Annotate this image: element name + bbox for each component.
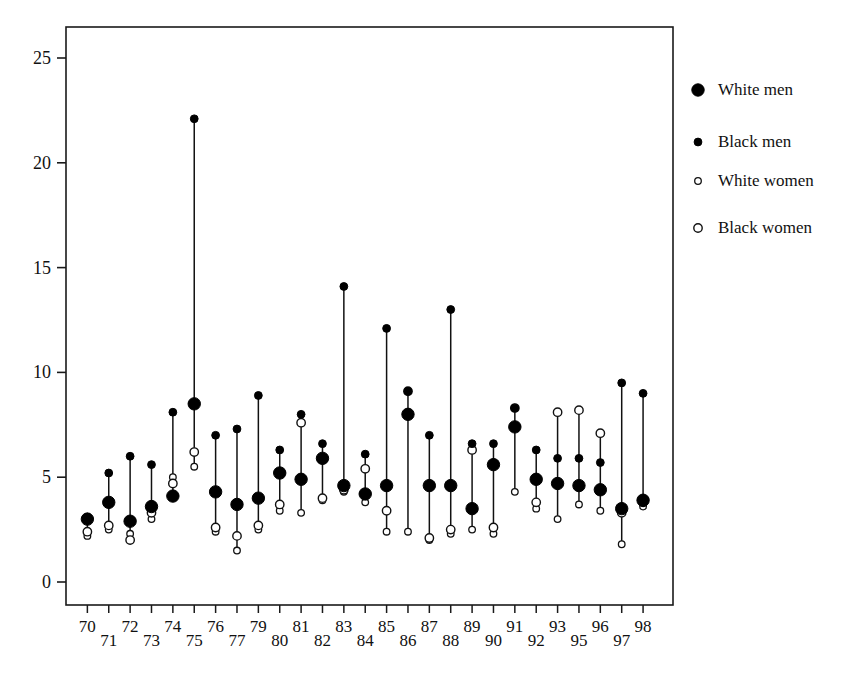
data-point (276, 500, 284, 508)
x-tick-label-bottom: 92 (528, 631, 545, 650)
y-tick-label: 25 (33, 48, 51, 68)
y-tick-label: 10 (33, 362, 51, 382)
data-point (575, 454, 583, 462)
data-point (126, 536, 134, 544)
data-point (532, 446, 540, 454)
data-point (188, 398, 200, 410)
x-tick-label-top: 91 (506, 617, 523, 636)
scatter-chart: 0510152025707274767981838587899193969871… (0, 0, 858, 681)
data-point (380, 479, 392, 491)
data-point (105, 469, 113, 477)
legend-label-0: White men (718, 80, 793, 100)
data-point (276, 446, 284, 454)
data-point (489, 523, 497, 531)
data-point (596, 459, 604, 467)
data-point (594, 484, 606, 496)
data-point (425, 534, 433, 542)
x-tick-label-bottom: 88 (442, 631, 459, 650)
legend-label-1: Black men (718, 132, 791, 152)
data-point (554, 454, 562, 462)
data-point (425, 431, 433, 439)
data-point (618, 379, 626, 387)
x-tick-label-bottom: 90 (485, 631, 502, 650)
plot-frame (66, 27, 673, 605)
data-point (511, 404, 519, 412)
data-point (338, 479, 350, 491)
data-point (597, 507, 604, 514)
data-point (124, 515, 136, 527)
data-point (576, 501, 583, 508)
x-tick-label-top: 89 (464, 617, 481, 636)
data-point (447, 306, 455, 314)
data-point (554, 516, 561, 523)
x-tick-label-bottom: 73 (143, 631, 160, 650)
data-point (211, 523, 219, 531)
data-point (252, 492, 264, 504)
data-point (297, 410, 305, 418)
x-tick-label-top: 70 (79, 617, 96, 636)
x-tick-label-bottom: 71 (100, 631, 117, 650)
data-point (145, 500, 157, 512)
data-point (254, 392, 262, 400)
x-tick-label-top: 76 (207, 617, 224, 636)
x-tick-label-top: 85 (378, 617, 395, 636)
data-point (618, 541, 625, 548)
data-point (616, 502, 628, 514)
data-point (575, 406, 583, 414)
legend-marker-0 (692, 84, 704, 96)
data-point (639, 389, 647, 397)
data-point (512, 489, 519, 496)
data-point (234, 547, 241, 554)
data-point (340, 283, 348, 291)
x-tick-label-bottom: 77 (228, 631, 246, 650)
data-point (274, 467, 286, 479)
data-point (404, 387, 412, 395)
data-point (233, 425, 241, 433)
legend-marker-1 (694, 138, 702, 146)
data-point (233, 532, 241, 540)
data-point (316, 452, 328, 464)
data-point (169, 479, 177, 487)
data-point (298, 510, 305, 517)
y-tick-label: 5 (42, 467, 51, 487)
x-tick-label-bottom: 95 (570, 631, 587, 650)
data-point (487, 458, 499, 470)
x-tick-label-top: 96 (592, 617, 609, 636)
y-tick-label: 0 (42, 572, 51, 592)
chart-page: 0510152025707274767981838587899193969871… (0, 0, 858, 681)
data-point (209, 486, 221, 498)
data-point (254, 521, 262, 529)
data-point (361, 465, 369, 473)
data-point (212, 431, 220, 439)
data-point (83, 527, 91, 535)
data-point (423, 479, 435, 491)
data-point (148, 461, 156, 469)
data-point (469, 526, 476, 533)
legend-marker-2 (695, 178, 702, 185)
x-tick-label-top: 74 (164, 617, 182, 636)
data-point (596, 429, 604, 437)
data-point (445, 479, 457, 491)
data-point (447, 525, 455, 533)
data-point (190, 448, 198, 456)
data-point (190, 115, 198, 123)
x-tick-label-top: 83 (335, 617, 352, 636)
data-point (405, 528, 412, 535)
data-point (103, 496, 115, 508)
data-point (573, 479, 585, 491)
x-tick-label-top: 79 (250, 617, 267, 636)
x-tick-label-top: 98 (635, 617, 652, 636)
x-tick-label-bottom: 75 (186, 631, 203, 650)
data-point (382, 507, 390, 515)
data-point (319, 440, 327, 448)
x-tick-label-top: 72 (122, 617, 139, 636)
data-point (167, 490, 179, 502)
data-point (530, 473, 542, 485)
data-point (231, 498, 243, 510)
data-point (297, 419, 305, 427)
data-point (359, 488, 371, 500)
data-point (402, 408, 414, 420)
x-tick-label-top: 81 (293, 617, 310, 636)
data-point (490, 440, 498, 448)
y-tick-label: 20 (33, 153, 51, 173)
